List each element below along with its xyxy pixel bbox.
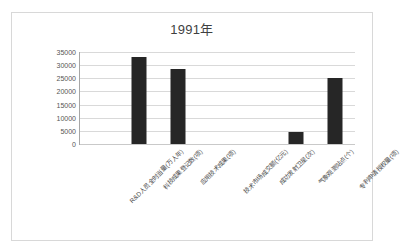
y-axis-tick-labels: 35000300002500020000150001000050000: [12, 52, 76, 144]
bar-slot: [159, 52, 198, 144]
bar-slot: [276, 52, 315, 144]
x-axis-tick-label: 气象观测站点(个): [316, 147, 356, 187]
bar-slot: [198, 52, 237, 144]
bar[interactable]: [131, 57, 146, 144]
chart-title: 1991年: [12, 19, 372, 38]
bar-slot: [237, 52, 276, 144]
y-axis-tick-label: 35000: [14, 49, 76, 56]
bar-slot: [80, 52, 119, 144]
y-axis-tick-label: 30000: [14, 62, 76, 69]
y-axis-tick-label: 5000: [14, 127, 76, 134]
y-axis-tick-label: 15000: [14, 101, 76, 108]
x-axis-tick-label: 专利申请授权量(项): [357, 147, 401, 191]
y-axis-tick-label: 20000: [14, 88, 76, 95]
plot-area[interactable]: [80, 52, 355, 144]
x-axis-tick-label: 技术市场成交额(亿元): [241, 147, 289, 195]
x-axis-tick-labels: R&D人员全时当量(万人年)科技成果登记数(项)应用技术成果(项)技术市场成交额…: [80, 145, 355, 237]
bar[interactable]: [289, 132, 304, 144]
bar[interactable]: [171, 69, 186, 144]
bar[interactable]: [328, 78, 343, 144]
bar-slot: [316, 52, 355, 144]
y-axis-tick-label: 10000: [14, 114, 76, 121]
chart-container[interactable]: 1991年 3500030000250002000015000100005000…: [11, 12, 373, 241]
y-axis-tick-label: 0: [14, 141, 76, 148]
y-axis-tick-label: 25000: [14, 75, 76, 82]
bar-slot: [119, 52, 158, 144]
